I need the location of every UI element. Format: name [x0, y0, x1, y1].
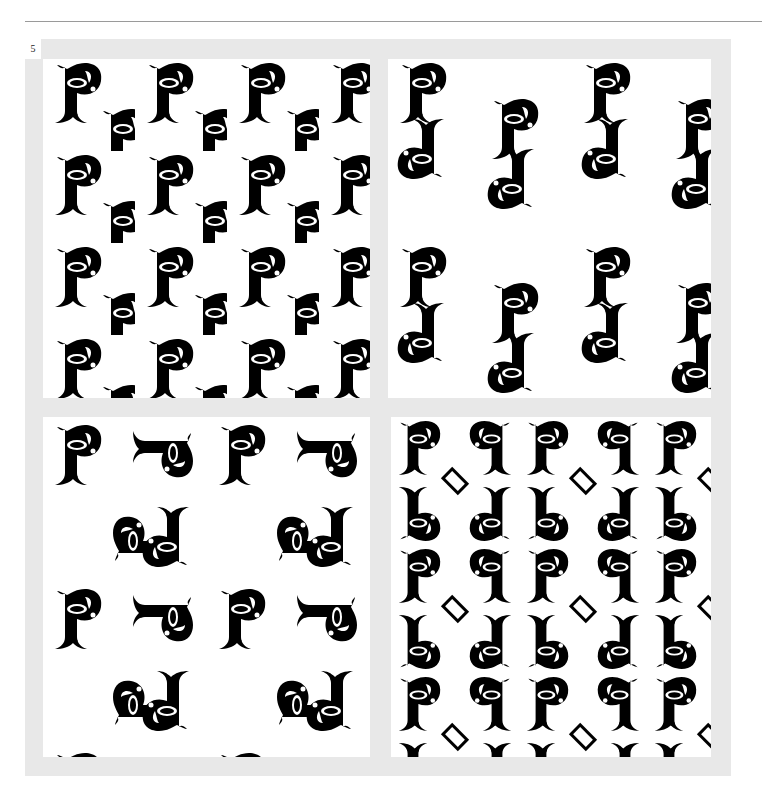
p-letter-pattern-icon	[43, 59, 370, 398]
pattern-panel-top-left	[43, 59, 370, 398]
pattern-panel-top-right	[388, 59, 711, 398]
pattern-panel-bottom-right	[391, 417, 711, 757]
pattern-panel-bottom-left	[43, 417, 370, 757]
page-number: 5	[25, 39, 41, 59]
p-letter-pattern-icon	[43, 417, 370, 757]
p-letter-pattern-icon	[391, 417, 711, 757]
header-rule	[25, 21, 762, 22]
p-letter-pattern-icon	[388, 59, 711, 398]
